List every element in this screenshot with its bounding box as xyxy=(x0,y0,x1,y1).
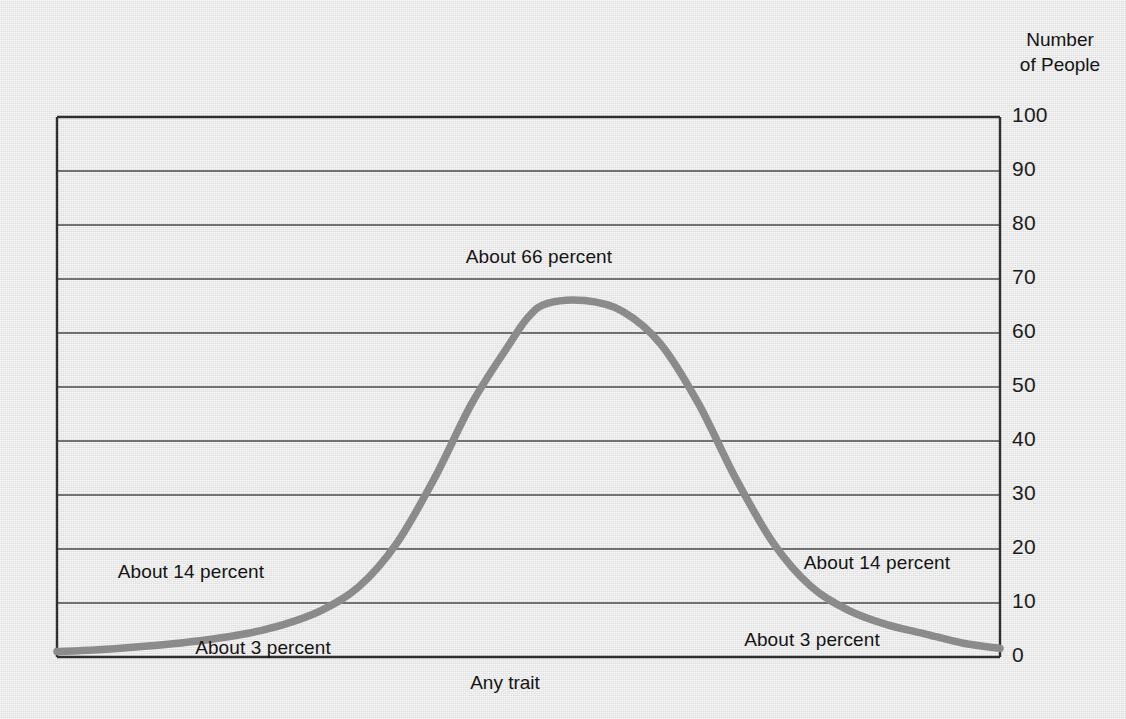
y-axis-title: Number of People xyxy=(1000,27,1120,77)
chart-annotation-left-mid: About 14 percent xyxy=(118,561,264,583)
y-axis-tick-label: 20 xyxy=(1012,535,1082,559)
chart-annotation-right-tail: About 3 percent xyxy=(744,629,880,651)
y-axis-tick-label: 0 xyxy=(1012,643,1082,667)
x-axis-title: Any trait xyxy=(0,672,1010,694)
y-axis-tick-label: 80 xyxy=(1012,211,1082,235)
y-axis-tick-label: 60 xyxy=(1012,319,1082,343)
chart-annotation-peak: About 66 percent xyxy=(466,246,612,268)
y-axis-title-line2: of People xyxy=(1000,52,1120,77)
y-axis-tick-label: 100 xyxy=(1012,103,1082,127)
y-axis-tick-label: 70 xyxy=(1012,265,1082,289)
distribution-curve xyxy=(57,300,1000,652)
y-axis-tick-label: 40 xyxy=(1012,427,1082,451)
chart-annotation-right-mid: About 14 percent xyxy=(804,552,950,574)
gridlines-group xyxy=(57,171,1000,603)
y-axis-tick-label: 30 xyxy=(1012,481,1082,505)
y-axis-tick-label: 50 xyxy=(1012,373,1082,397)
chart-annotation-left-tail: About 3 percent xyxy=(195,637,331,659)
y-axis-title-line1: Number xyxy=(1000,27,1120,52)
y-axis-tick-label: 90 xyxy=(1012,157,1082,181)
chart-page: 0102030405060708090100 Number of People … xyxy=(0,0,1126,719)
bell-curve-chart xyxy=(0,0,1126,719)
y-axis-tick-label: 10 xyxy=(1012,589,1082,613)
